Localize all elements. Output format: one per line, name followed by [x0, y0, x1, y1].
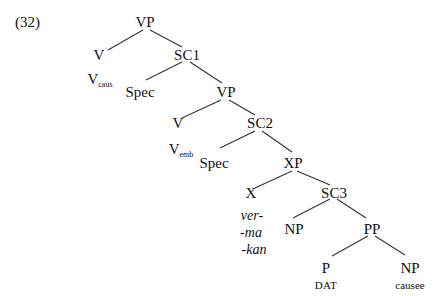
- node-v-caus: V: [94, 48, 105, 63]
- node-v-emb: V: [173, 116, 184, 131]
- gloss-causee: causee: [395, 280, 424, 291]
- node-sc1: SC1: [174, 48, 200, 63]
- gloss-base: V: [169, 141, 180, 157]
- gloss-v-caus: Vcaus: [87, 72, 112, 89]
- node-sc3: SC3: [321, 186, 347, 201]
- node-p: P: [322, 261, 330, 276]
- node-np-subject: NP: [284, 222, 303, 237]
- gloss-dat: DAT: [315, 280, 337, 291]
- gloss-subscript: caus: [98, 80, 112, 89]
- tree-branches: [0, 0, 438, 296]
- gloss-v-emb: Vemb: [169, 142, 194, 159]
- node-sc2: SC2: [247, 116, 273, 131]
- node-vp-embedded: VP: [216, 85, 235, 100]
- node-np-causee: NP: [400, 261, 419, 276]
- gloss-base: V: [87, 71, 98, 87]
- node-xp: XP: [283, 156, 302, 171]
- gloss-subscript: emb: [180, 150, 194, 159]
- example-number: (32): [15, 14, 40, 31]
- node-spec2: Spec: [199, 156, 228, 171]
- morpheme-ma: -ma: [240, 226, 262, 240]
- node-x: X: [246, 186, 257, 201]
- syntax-tree-diagram: (32) VP V Vcaus SC1 Spec VP V Vemb SC2 S…: [0, 0, 438, 296]
- node-spec1: Spec: [125, 85, 154, 100]
- morpheme-kan: -kan: [242, 243, 267, 257]
- morpheme-ver: ver-: [241, 209, 263, 223]
- node-pp: PP: [364, 222, 381, 237]
- node-vp-root: VP: [135, 15, 154, 30]
